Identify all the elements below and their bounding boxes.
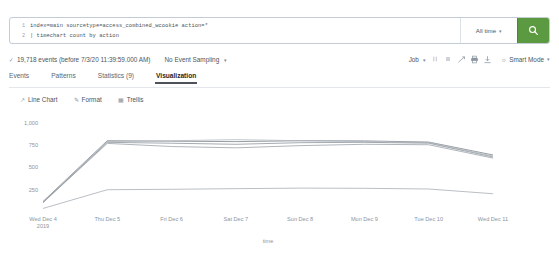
chart-controls: ↗ Line Chart ✎ Format ▦ Trellis [20,92,160,106]
line-chart: 2505007501,000 Wed Dec 42019Thu Dec 5Fri… [9,110,550,246]
stop-button[interactable] [442,53,455,66]
print-button[interactable] [468,53,481,66]
chart-line-addtocart [43,141,493,202]
search-submit-button[interactable] [517,18,549,43]
tab-label: Patterns [51,72,76,79]
x-tick-label: Sat Dec 7 [224,216,249,223]
tab-patterns[interactable]: Patterns [51,70,87,84]
x-tick-label: Wed Dec 11 [478,216,508,223]
lightbulb-icon: ☼ [501,56,507,63]
tabs-divider [9,87,550,88]
query-line: 1 index=main sourcetype=access_combined_… [14,21,456,31]
trellis-label: Trellis [127,96,144,103]
search-icon [528,25,539,36]
format-button[interactable]: ✎ Format [74,96,102,103]
export-button[interactable] [481,53,494,66]
job-menu-button[interactable]: Job ▾ [406,56,429,63]
query-line: 2 | timechart count by action [14,31,456,41]
time-range-picker[interactable]: All time ▾ [460,18,517,43]
time-range-label: All time [476,27,496,34]
job-menu-label: Job [409,56,419,63]
query-line-number: 2 [14,31,25,41]
chevron-down-icon: ▾ [224,57,227,63]
query-line-text: | timechart count by action [30,31,119,41]
event-count: ✓ 19,718 events (before 7/3/20 11:39:59.… [9,56,150,63]
x-tick-label: Thu Dec 5 [94,216,120,223]
query-line-number: 1 [14,21,25,31]
chart-type-label: Line Chart [28,96,58,103]
share-button[interactable] [455,53,468,66]
x-axis-title: time [43,238,493,244]
y-tick-label: 250 [29,187,38,193]
x-tick-label: Wed Dec 42019 [29,216,57,230]
chevron-down-icon: ▾ [547,56,550,62]
pause-button[interactable] [429,53,442,66]
trellis-icon: ▦ [118,96,124,103]
tab-statistics[interactable]: Statistics (9) [98,70,145,84]
query-line-text: index=main sourcetype=access_combined_wc… [30,21,208,31]
print-icon [470,55,479,64]
result-tabs: Events Patterns Statistics (9) Visualiza… [9,70,550,88]
search-mode-label: Smart Mode [509,56,544,63]
x-tick-year: 2019 [29,223,57,230]
y-tick-label: 1,000 [24,120,38,126]
tab-label: Statistics (9) [98,72,134,79]
tab-visualization[interactable]: Visualization [156,70,207,84]
chart-line-purchase [43,140,493,202]
chart-line-remove [43,142,493,202]
search-query-input[interactable]: 1 index=main sourcetype=access_combined_… [10,18,460,43]
chart-series-svg [43,114,493,212]
pause-icon [431,55,439,63]
event-sampling-dropdown[interactable]: No Event Sampling ▾ [164,56,227,63]
chart-line-changequantity [43,143,493,202]
job-tools: Job ▾ [406,53,550,66]
event-sampling-label: No Event Sampling [164,56,219,63]
tab-label: Visualization [156,72,196,79]
share-icon [457,55,466,64]
event-count-label: 19,718 events (before 7/3/20 11:39:59.00… [17,56,150,63]
format-label: Format [82,96,102,103]
x-tick-label: Sun Dec 8 [287,216,313,223]
check-icon: ✓ [9,56,14,63]
tab-events[interactable]: Events [9,70,40,84]
chart-type-icon: ↗ [20,96,25,103]
stop-icon [444,55,452,63]
results-toolbar: ✓ 19,718 events (before 7/3/20 11:39:59.… [9,51,550,67]
y-tick-label: 750 [29,142,38,148]
trellis-button[interactable]: ▦ Trellis [118,96,144,103]
export-icon [483,55,492,64]
search-mode-dropdown[interactable]: ☼ Smart Mode ▾ [501,56,550,63]
chevron-down-icon: ▾ [499,28,502,34]
chart-line-view [43,188,493,208]
splunk-search-page: 1 index=main sourcetype=access_combined_… [0,0,559,256]
tab-label: Events [9,72,29,79]
chart-type-button[interactable]: ↗ Line Chart [20,96,58,103]
x-tick-label: Fri Dec 6 [160,216,183,223]
chart-plot-area: 2505007501,000 Wed Dec 42019Thu Dec 5Fri… [43,114,493,212]
chevron-down-icon: ▾ [423,57,426,63]
y-tick-label: 500 [29,164,38,170]
x-tick-label: Mon Dec 9 [351,216,378,223]
format-icon: ✎ [74,96,79,103]
x-tick-label: Tue Dec 10 [414,216,443,223]
search-bar[interactable]: 1 index=main sourcetype=access_combined_… [9,17,550,44]
